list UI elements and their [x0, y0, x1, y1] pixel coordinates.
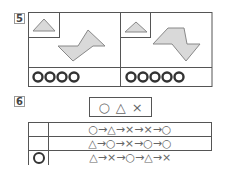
panel-2: [121, 13, 201, 82]
polygon-shape-1: [58, 30, 105, 61]
table-row: △→○→×→○→○: [29, 137, 212, 151]
circle-icon: [70, 73, 79, 82]
circle-icon: [175, 73, 184, 82]
sequence-table: ○→△→×→×→○ △→○→×→○→○ △→×→○→△→×: [28, 122, 212, 165]
sequence-cell: △→×→○→△→×: [49, 151, 212, 165]
table-row: △→×→○→△→×: [29, 151, 212, 165]
answer-circles-2: [127, 73, 184, 82]
table-row: ○→△→×→×→○: [29, 123, 212, 137]
triangle-icon: [33, 19, 55, 31]
problem-6-number: 6: [14, 96, 25, 107]
answer-mark-cell[interactable]: [29, 151, 49, 165]
circle-icon: [151, 73, 160, 82]
cross-symbol: ×: [132, 100, 143, 115]
circle-icon: [34, 73, 43, 82]
circle-icon: [127, 73, 136, 82]
polygon-shape-2: [153, 28, 200, 61]
circle-symbol: ○: [98, 100, 109, 115]
answer-mark-cell[interactable]: [29, 137, 49, 151]
circle-icon: [58, 73, 67, 82]
problem-5-figure: [0, 0, 225, 100]
circle-icon: [163, 73, 172, 82]
answer-mark-cell[interactable]: [29, 123, 49, 137]
symbol-legend-box: ○ △ ×: [89, 97, 152, 117]
circle-icon: [139, 73, 148, 82]
sequence-cell: ○→△→×→×→○: [49, 123, 212, 137]
selected-answer-circle-icon: [33, 152, 45, 164]
answer-circles-1: [34, 73, 79, 82]
panel-1: [29, 13, 106, 82]
sequence-cell: △→○→×→○→○: [49, 137, 212, 151]
circle-icon: [46, 73, 55, 82]
triangle-icon: [125, 22, 147, 32]
triangle-symbol: △: [116, 100, 126, 115]
